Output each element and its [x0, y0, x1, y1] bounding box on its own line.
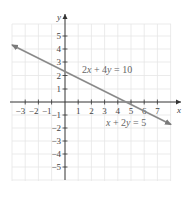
- x-tick-label: 2: [89, 106, 94, 116]
- x-tick-label: 7: [155, 106, 160, 116]
- x-tick-label: 1: [76, 106, 81, 116]
- y-axis-label: y: [56, 12, 61, 22]
- equation-label-1: 2x + 4y = 10: [82, 64, 132, 75]
- y-tick-label: 2: [57, 71, 62, 81]
- x-tick-label: 5: [129, 106, 134, 116]
- y-tick-label: −3: [51, 136, 61, 146]
- coordinate-plane: −3 −2 −1 1 2 3 4 5 6 7 5 4 3 2 1 −1 −2 −…: [0, 0, 192, 197]
- x-tick-label: −1: [42, 106, 52, 116]
- y-tick-label: 1: [57, 84, 62, 94]
- y-tick-label: −4: [51, 149, 61, 159]
- equation-label-2: x + 2y = 5: [105, 117, 146, 128]
- x-tick-label: 3: [102, 106, 107, 116]
- x-tick-label: −2: [29, 106, 39, 116]
- y-tick-label: −1: [51, 110, 61, 120]
- x-tick-label: 4: [116, 106, 121, 116]
- y-tick-label: −2: [51, 123, 61, 133]
- x-axis-label: x: [176, 105, 181, 115]
- y-tick-label: −5: [51, 162, 61, 172]
- y-tick-label: 4: [57, 44, 62, 54]
- x-tick-label: −3: [16, 106, 26, 116]
- y-tick-label: 5: [57, 31, 62, 41]
- y-tick-label: 3: [57, 57, 62, 67]
